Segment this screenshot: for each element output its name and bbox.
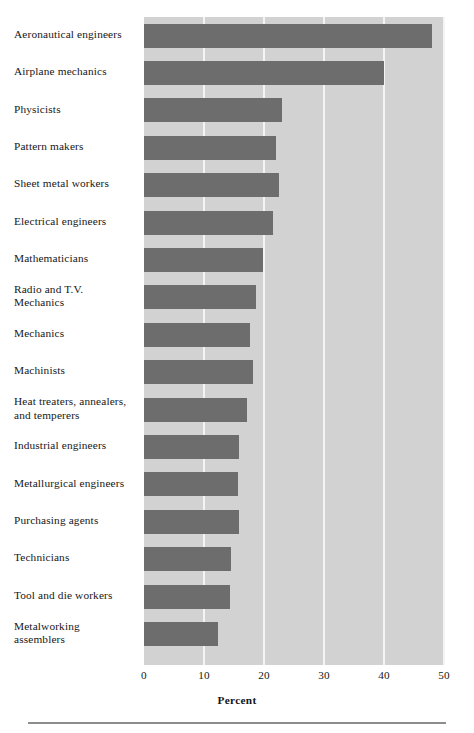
bar — [144, 622, 218, 646]
x-tick-label-0: 0 — [124, 669, 164, 682]
x-tick-label-30: 30 — [304, 669, 344, 682]
category-label: Metallurgical engineers — [14, 477, 138, 490]
category-label: Purchasing agents — [14, 514, 138, 527]
category-label: Metalworking assemblers — [14, 620, 138, 647]
bar — [144, 435, 239, 459]
category-label: Mechanics — [14, 327, 138, 340]
bar — [144, 285, 256, 309]
category-label: Industrial engineers — [14, 439, 138, 452]
category-label: Mathematicians — [14, 252, 138, 265]
bar-row — [144, 248, 444, 272]
bar-row — [144, 585, 444, 609]
bar-row — [144, 136, 444, 160]
bar-row — [144, 547, 444, 571]
bar-row — [144, 24, 444, 48]
category-label: Electrical engineers — [14, 215, 138, 228]
bar-row — [144, 398, 444, 422]
bar-row — [144, 472, 444, 496]
bar — [144, 248, 263, 272]
bar — [144, 398, 247, 422]
x-tick-label-10: 10 — [184, 669, 224, 682]
bar — [144, 61, 384, 85]
bar-row — [144, 285, 444, 309]
x-tick-label-20: 20 — [244, 669, 284, 682]
category-label: Pattern makers — [14, 140, 138, 153]
category-label: Physicists — [14, 103, 138, 116]
bar-row — [144, 323, 444, 347]
bar-row — [144, 173, 444, 197]
bar — [144, 211, 273, 235]
category-label: Machinists — [14, 364, 138, 377]
bar — [144, 585, 230, 609]
bar — [144, 136, 276, 160]
category-label: Sheet metal workers — [14, 177, 138, 190]
bar-row — [144, 98, 444, 122]
bar — [144, 98, 282, 122]
bar — [144, 547, 231, 571]
category-label: Tool and die workers — [14, 589, 138, 602]
bottom-rule — [28, 722, 446, 724]
percent-bar-chart: Aeronautical engineersAirplane mechanics… — [0, 0, 474, 733]
category-label: Airplane mechanics — [14, 65, 138, 78]
bar — [144, 173, 279, 197]
bar — [144, 24, 432, 48]
bar-row — [144, 510, 444, 534]
bar-row — [144, 360, 444, 384]
bar — [144, 360, 253, 384]
x-axis-title: Percent — [0, 694, 474, 706]
category-label: Radio and T.V. Mechanics — [14, 283, 138, 310]
plot-area — [144, 17, 444, 665]
category-label: Aeronautical engineers — [14, 28, 138, 41]
bar-row — [144, 622, 444, 646]
bar-row — [144, 211, 444, 235]
bar-row — [144, 435, 444, 459]
category-label: Heat treaters, annealers, and temperers — [14, 395, 138, 422]
x-tick-label-50: 50 — [424, 669, 464, 682]
category-label: Technicians — [14, 551, 138, 564]
x-tick-label-40: 40 — [364, 669, 404, 682]
bar — [144, 510, 239, 534]
bar — [144, 472, 238, 496]
bar-row — [144, 61, 444, 85]
bar — [144, 323, 250, 347]
